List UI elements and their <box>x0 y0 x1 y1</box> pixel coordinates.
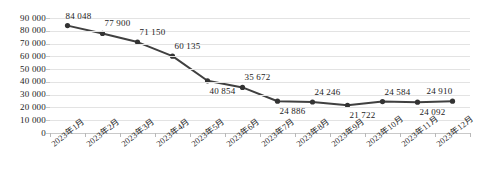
y-axis: 90 00080 00070 00060 00050 00040 00030 0… <box>0 18 46 133</box>
data-point-label: 24 910 <box>427 87 453 96</box>
gridline <box>50 31 470 32</box>
y-axis-tick-label: 30 000 <box>20 90 46 99</box>
gridline <box>50 44 470 45</box>
data-point-marker[interactable] <box>450 99 455 104</box>
x-axis-tick-mark <box>470 133 471 137</box>
data-point-label: 24 886 <box>280 107 306 116</box>
data-point-label: 24 584 <box>385 88 411 97</box>
data-point-marker[interactable] <box>240 85 245 90</box>
data-point-label: 35 672 <box>245 73 271 82</box>
data-point-label: 40 854 <box>210 87 236 96</box>
data-point-label: 77 900 <box>105 19 131 28</box>
data-point-marker[interactable] <box>275 99 280 104</box>
data-point-marker[interactable] <box>415 100 420 105</box>
data-point-marker[interactable] <box>380 99 385 104</box>
line-chart: 90 00080 00070 00060 00050 00040 00030 0… <box>0 0 478 191</box>
y-axis-tick-label: 20 000 <box>20 103 46 112</box>
gridline <box>50 56 470 57</box>
gridline <box>50 107 470 108</box>
data-point-label: 60 135 <box>175 42 201 51</box>
data-point-label: 71 150 <box>140 28 166 37</box>
data-point-label: 24 246 <box>315 88 341 97</box>
y-axis-tick-label: 60 000 <box>20 52 46 61</box>
y-axis-tick-label: 70 000 <box>20 39 46 48</box>
data-point-marker[interactable] <box>65 23 70 28</box>
y-axis-tick-label: 50 000 <box>20 65 46 74</box>
y-axis-tick-label: 80 000 <box>20 26 46 35</box>
y-axis-tick-label: 10 000 <box>20 116 46 125</box>
y-axis-tick-label: 90 000 <box>20 14 46 23</box>
data-point-label: 84 048 <box>66 12 92 21</box>
gridline <box>50 69 470 70</box>
data-point-marker[interactable] <box>310 99 315 104</box>
y-axis-tick-label: 40 000 <box>20 77 46 86</box>
